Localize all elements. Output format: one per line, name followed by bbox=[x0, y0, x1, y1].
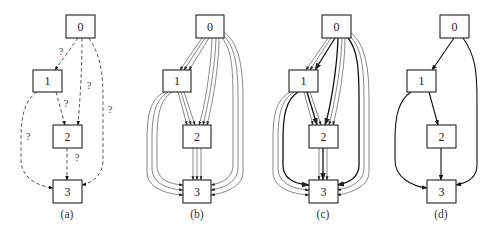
edge-label-1-3: ? bbox=[26, 131, 31, 142]
caption-a: (a) bbox=[61, 208, 74, 221]
svg-text:1: 1 bbox=[419, 74, 425, 88]
edge-0-1 bbox=[184, 38, 205, 70]
svg-text:3: 3 bbox=[194, 185, 200, 199]
svg-text:0: 0 bbox=[78, 20, 84, 34]
node-0: 0 bbox=[440, 15, 469, 38]
caption-c: (c) bbox=[317, 208, 330, 221]
svg-text:0: 0 bbox=[452, 20, 458, 34]
node-2: 2 bbox=[427, 125, 456, 148]
panel-d: 0 1 2 3 (d) bbox=[395, 15, 477, 221]
node-3: 3 bbox=[309, 180, 338, 203]
edge-0-2 bbox=[207, 38, 219, 125]
edges-b bbox=[147, 32, 243, 195]
edge-1-3 bbox=[147, 92, 183, 195]
edge-0-2 bbox=[333, 38, 345, 125]
dag-figure: ? ? ? ? ? ? 0 1 2 3 (a) bbox=[0, 0, 495, 237]
edge-label-0-3: ? bbox=[108, 104, 113, 115]
node-0: 0 bbox=[322, 15, 351, 38]
svg-text:2: 2 bbox=[439, 130, 445, 144]
edge-0-3 bbox=[456, 38, 477, 185]
svg-text:0: 0 bbox=[334, 20, 340, 34]
node-2: 2 bbox=[183, 125, 211, 148]
edge-1-2 bbox=[429, 92, 438, 125]
svg-text:3: 3 bbox=[321, 185, 327, 199]
svg-text:1: 1 bbox=[174, 74, 180, 88]
edge-0-2 bbox=[329, 38, 342, 125]
svg-text:1: 1 bbox=[301, 74, 307, 88]
node-3: 3 bbox=[427, 180, 456, 203]
edge-label-1-2: ? bbox=[64, 98, 69, 109]
node-2: 2 bbox=[309, 125, 338, 148]
caption-b: (b) bbox=[190, 208, 204, 221]
svg-text:3: 3 bbox=[439, 185, 445, 199]
node-2: 2 bbox=[53, 125, 82, 148]
edge-0-3 bbox=[82, 38, 103, 185]
edge-0-1 bbox=[310, 38, 331, 70]
svg-text:2: 2 bbox=[194, 130, 200, 144]
edge-0-2 bbox=[203, 38, 216, 125]
edge-1-3 bbox=[395, 92, 427, 188]
svg-text:2: 2 bbox=[65, 130, 71, 144]
node-1: 1 bbox=[289, 70, 318, 92]
svg-text:2: 2 bbox=[321, 130, 327, 144]
edge-label-0-1: ? bbox=[59, 46, 64, 57]
panel-b: 0 1 2 3 (b) bbox=[147, 15, 243, 221]
node-1: 1 bbox=[407, 70, 436, 92]
svg-text:3: 3 bbox=[65, 185, 71, 199]
svg-text:0: 0 bbox=[207, 20, 213, 34]
edge-label-0-2: ? bbox=[87, 80, 92, 91]
edges-d bbox=[395, 38, 477, 188]
edge-0-1 bbox=[432, 38, 454, 70]
panel-c: 0 1 2 3 (c) bbox=[273, 15, 369, 221]
node-1: 1 bbox=[33, 70, 62, 92]
node-0: 0 bbox=[66, 15, 95, 38]
edges-c bbox=[273, 32, 369, 195]
edge-label-2-3: ? bbox=[75, 152, 80, 163]
edges-a bbox=[21, 38, 103, 188]
panel-a: ? ? ? ? ? ? 0 1 2 3 (a) bbox=[21, 15, 113, 221]
svg-text:1: 1 bbox=[45, 74, 51, 88]
edge-0-3 bbox=[211, 36, 238, 190]
edge-0-3 bbox=[337, 36, 364, 190]
edge-0-2 bbox=[78, 38, 82, 125]
edge-1-3-selected bbox=[283, 92, 309, 185]
node-0: 0 bbox=[196, 15, 224, 38]
node-3: 3 bbox=[183, 180, 211, 203]
edge-1-3 bbox=[157, 92, 183, 185]
caption-d: (d) bbox=[434, 208, 448, 221]
node-3: 3 bbox=[53, 180, 82, 203]
node-1: 1 bbox=[163, 70, 191, 92]
